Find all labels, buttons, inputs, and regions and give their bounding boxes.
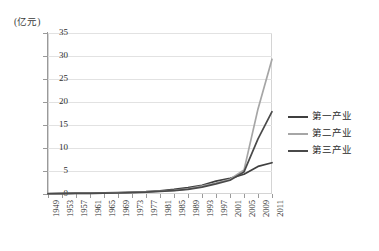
legend-item[interactable]: 第三产业 [288, 142, 376, 159]
legend-line-swatch [288, 150, 308, 152]
legend-item[interactable]: 第一产业 [288, 108, 376, 125]
legend-line-swatch [288, 116, 308, 118]
legend-item[interactable]: 第二产业 [288, 125, 376, 142]
series-line [48, 112, 272, 194]
series-line [48, 163, 272, 194]
legend-item-label: 第三产业 [312, 146, 352, 156]
legend-item-label: 第一产业 [312, 112, 352, 122]
line-chart: (亿元) 05101520253035 19491953195719611965… [0, 0, 379, 251]
legend: 第一产业第二产业第三产业 [288, 108, 376, 159]
legend-item-label: 第二产业 [312, 129, 352, 139]
series-line [48, 59, 272, 194]
legend-line-swatch [288, 133, 308, 135]
